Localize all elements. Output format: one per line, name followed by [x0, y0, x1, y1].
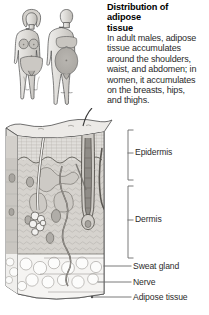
description-line: around the shoulders,: [107, 54, 209, 64]
description-line: In adult males, adipose: [107, 33, 209, 43]
description-line: on the breasts, hips,: [107, 85, 209, 95]
male-figure: [47, 10, 78, 105]
label-nerve: Nerve: [133, 278, 155, 287]
label-sweat-gland: Sweat gland: [133, 262, 179, 271]
skin-cross-section-diagram: [4, 108, 120, 313]
description-line: and thighs.: [107, 95, 209, 105]
description-line: women, it accumulates: [107, 75, 209, 85]
description-line: tissue accumulates: [107, 43, 209, 53]
title-line-3: tissue: [107, 23, 207, 33]
label-dermis: Dermis: [135, 215, 162, 224]
female-figure: [14, 9, 42, 99]
epidermis-bracket: [128, 130, 133, 180]
figure-title: Distribution of adipose tissue: [107, 2, 207, 33]
description-line: waist, and abdomen; in: [107, 64, 209, 74]
figure-page: Distribution of adipose tissue In adult …: [0, 0, 209, 315]
figure-description: In adult males, adipose tissue accumulat…: [107, 33, 209, 106]
dermis-bracket: [128, 186, 133, 258]
title-line-2: adipose: [107, 12, 207, 22]
label-adipose-tissue: Adipose tissue: [133, 293, 188, 302]
label-epidermis: Epidermis: [135, 148, 172, 157]
body-figures-illustration: [6, 4, 104, 108]
title-line-1: Distribution of: [107, 2, 207, 12]
